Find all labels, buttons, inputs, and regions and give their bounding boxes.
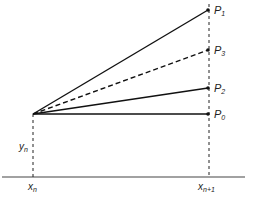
label-p2: P2 <box>214 82 225 95</box>
point-p3-dot <box>206 48 210 52</box>
label-xn: xn <box>27 181 37 193</box>
ray-p2 <box>33 88 208 114</box>
label-xn1: xn+1 <box>197 181 215 193</box>
ray-p1 <box>33 10 208 114</box>
diagram-canvas: P1 P3 P2 P0 yn xn xn+1 <box>0 0 255 199</box>
label-yn: yn <box>18 141 28 153</box>
label-p0: P0 <box>214 108 225 121</box>
label-p1: P1 <box>214 4 225 17</box>
point-p0-dot <box>206 112 210 116</box>
point-p1-dot <box>206 8 210 12</box>
ray-p3 <box>33 50 208 114</box>
point-p2-dot <box>206 86 210 90</box>
label-p3: P3 <box>214 44 225 57</box>
